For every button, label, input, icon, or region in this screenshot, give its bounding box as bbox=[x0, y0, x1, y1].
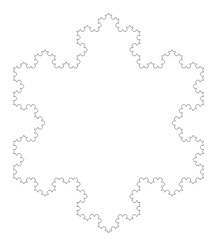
figure-background bbox=[0, 0, 217, 245]
koch-snowflake-svg bbox=[0, 0, 217, 245]
fractal-figure-canvas bbox=[0, 0, 217, 245]
